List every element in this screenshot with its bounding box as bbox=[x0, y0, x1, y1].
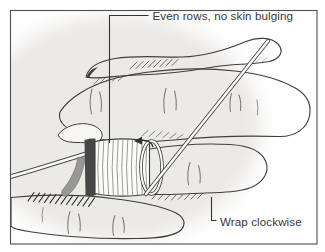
label-wrap-clockwise: Wrap clockwise bbox=[220, 215, 302, 228]
hand-wrap-illustration: Even rows, no skin bulging Wrap clockwis… bbox=[0, 0, 325, 252]
figure-canvas: Even rows, no skin bulging Wrap clockwis… bbox=[0, 0, 325, 252]
label-even-rows: Even rows, no skin bulging bbox=[153, 9, 294, 22]
